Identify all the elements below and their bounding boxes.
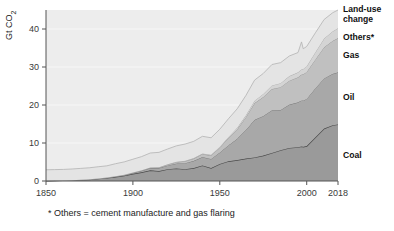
y-tick-label: 10 — [29, 138, 39, 148]
x-tick-label: 2000 — [297, 188, 317, 198]
y-tick-label: 30 — [29, 62, 39, 72]
y-tick-label: 20 — [29, 100, 39, 110]
co2-emissions-stacked-area-chart: 010203040 18501900195020002018 Gt CO2 La… — [0, 0, 394, 231]
x-tick-label: 1950 — [210, 188, 230, 198]
x-tick-label: 1850 — [36, 188, 56, 198]
y-tick-label: 40 — [29, 24, 39, 34]
legend-label-gas: Gas — [343, 50, 359, 60]
legend-label-continuation: change — [343, 14, 373, 24]
legend-label-oil: Oil — [343, 92, 354, 102]
x-tick-label: 1900 — [123, 188, 143, 198]
y-tick-label: 0 — [34, 176, 39, 186]
x-tick-label: 2018 — [328, 188, 348, 198]
legend-label-land-use-change: Land-use — [343, 4, 381, 14]
legend-label-others: Others* — [343, 32, 375, 42]
footnote: * Others = cement manufacture and gas fl… — [48, 208, 235, 218]
legend-label-coal: Coal — [343, 150, 362, 160]
chart-canvas: 010203040 18501900195020002018 Gt CO2 La… — [0, 0, 394, 231]
